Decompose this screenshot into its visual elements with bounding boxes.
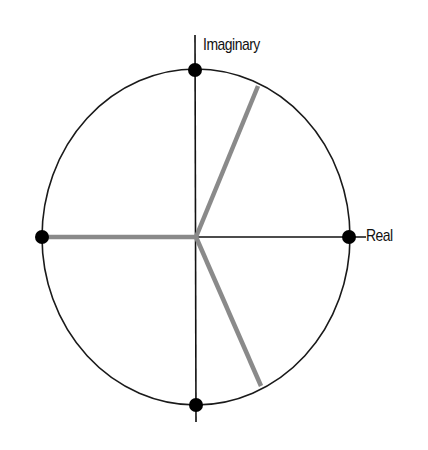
complex-plane-diagram <box>0 0 428 450</box>
real-axis-label: Real <box>366 226 393 246</box>
imaginary-axis <box>195 35 196 422</box>
point-bottom <box>189 398 203 412</box>
point-top <box>188 63 202 77</box>
spoke-lower-right <box>196 237 261 386</box>
imaginary-axis-label: Imaginary <box>203 35 260 55</box>
point-left <box>35 230 49 244</box>
spoke-upper-right <box>196 86 258 237</box>
point-right <box>342 230 356 244</box>
